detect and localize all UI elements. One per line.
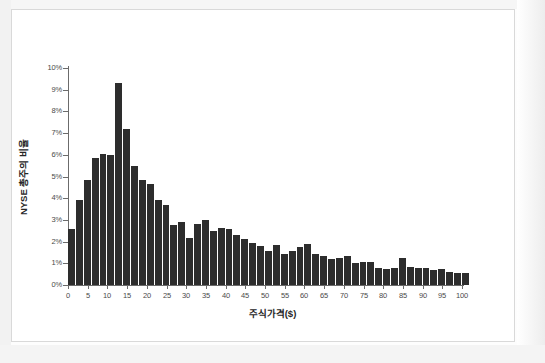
bar (360, 262, 368, 285)
bar (123, 129, 131, 285)
x-axis-tick (206, 285, 207, 289)
bar (155, 200, 163, 285)
bar (92, 158, 100, 285)
bar (139, 180, 147, 285)
y-axis-tick-label: 7% (26, 128, 62, 137)
bar (170, 225, 178, 285)
x-axis-tick (423, 285, 424, 289)
y-axis-tick-label: 4% (26, 193, 62, 202)
bar (423, 268, 431, 285)
bar (76, 200, 84, 285)
x-axis-tick (383, 285, 384, 289)
y-axis-tick-label: 10% (26, 63, 62, 72)
bar (375, 268, 383, 285)
chart-page: 0%1%2%3%4%5%6%7%8%9%10% 0510152025303540… (0, 0, 545, 363)
bar (202, 220, 210, 285)
bar (210, 231, 218, 285)
y-axis-tick-label: 2% (26, 237, 62, 246)
bar (399, 258, 407, 285)
x-axis-tick (88, 285, 89, 289)
bar-series (68, 68, 462, 285)
bar (391, 268, 399, 285)
bar (462, 273, 470, 285)
x-axis-tick (403, 285, 404, 289)
scan-edge-top (0, 0, 545, 9)
bar (186, 238, 194, 285)
y-axis-tick-label: 3% (26, 215, 62, 224)
x-axis-tick (462, 285, 463, 289)
bar (131, 166, 139, 285)
bar (265, 251, 273, 285)
x-axis-tick (226, 285, 227, 289)
x-axis-tick-label: 100 (450, 291, 474, 300)
bar (194, 224, 202, 285)
x-axis-tick (127, 285, 128, 289)
bar (312, 254, 320, 285)
y-axis-tick-label: 5% (26, 172, 62, 181)
x-axis-tick (186, 285, 187, 289)
bar (304, 244, 312, 285)
x-axis-tick (304, 285, 305, 289)
bar (226, 229, 234, 285)
bar (115, 83, 123, 285)
bar (297, 247, 305, 285)
bar (281, 254, 289, 285)
x-axis-tick (245, 285, 246, 289)
y-axis-tick-label: 0% (26, 280, 62, 289)
bar (273, 245, 281, 285)
x-axis-tick (364, 285, 365, 289)
bar (328, 259, 336, 285)
x-axis-tick (167, 285, 168, 289)
x-axis-tick (442, 285, 443, 289)
bar (163, 205, 171, 285)
bar (446, 272, 454, 285)
y-axis-title: NYSE 총주의 비율 (16, 107, 30, 247)
bar (68, 229, 76, 285)
x-axis-tick (107, 285, 108, 289)
bar (84, 180, 92, 285)
y-axis-tick-label: 1% (26, 258, 62, 267)
bar (147, 184, 155, 285)
bar (257, 246, 265, 285)
x-axis-tick (68, 285, 69, 289)
x-axis-tick (324, 285, 325, 289)
bar (178, 222, 186, 285)
x-axis-tick (265, 285, 266, 289)
bar (241, 239, 249, 285)
bar (233, 235, 241, 285)
bar (218, 228, 226, 286)
x-axis-tick (285, 285, 286, 289)
bar (336, 258, 344, 285)
y-axis-tick-label: 6% (26, 150, 62, 159)
y-axis-tick-label: 8% (26, 106, 62, 115)
bar (438, 269, 446, 285)
bar (289, 251, 297, 285)
bar (383, 269, 391, 285)
bar (454, 273, 462, 285)
bar (407, 267, 415, 285)
bar (320, 256, 328, 285)
y-axis-tick-label: 9% (26, 85, 62, 94)
x-axis-title: 주식가격($) (0, 306, 545, 320)
bar (352, 263, 360, 285)
bar (107, 155, 115, 285)
bar (415, 268, 423, 285)
bar (344, 256, 352, 285)
bar (100, 154, 108, 285)
x-axis-tick (344, 285, 345, 289)
bar (367, 262, 375, 285)
bar (249, 243, 257, 285)
scan-edge-bottom (0, 345, 545, 363)
x-axis-tick (147, 285, 148, 289)
bar (430, 270, 438, 285)
